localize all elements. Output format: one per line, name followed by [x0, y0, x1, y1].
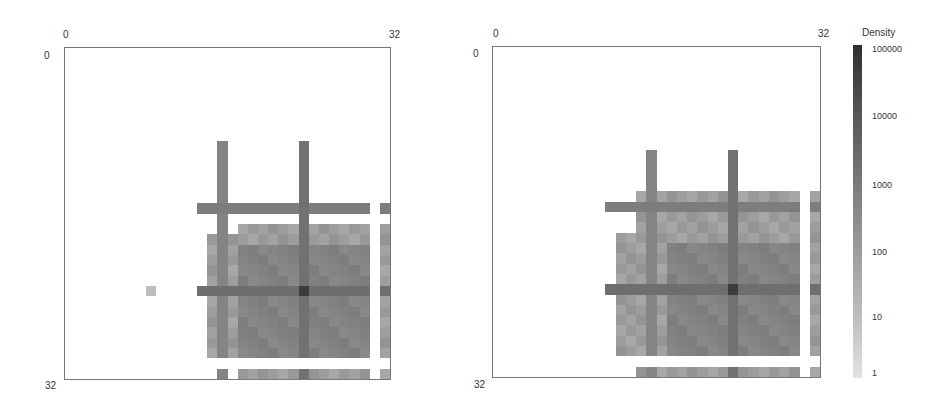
heatmap-cell	[544, 346, 554, 356]
heatmap-cell	[177, 69, 187, 79]
right-x-tick-start: 0	[493, 29, 499, 39]
heatmap-cell	[779, 150, 789, 160]
heatmap-cell	[708, 88, 718, 98]
heatmap-cell	[779, 119, 789, 129]
heatmap-cell	[187, 162, 197, 172]
heatmap-cell	[167, 245, 177, 255]
heatmap-cell	[380, 110, 390, 120]
heatmap-cell	[360, 265, 370, 275]
heatmap-cell	[177, 307, 187, 317]
heatmap-cell	[565, 356, 575, 366]
heatmap-cell	[65, 172, 75, 182]
heatmap-cell	[544, 109, 554, 119]
heatmap-cell	[380, 255, 390, 265]
heatmap-cell	[319, 286, 329, 296]
heatmap-cell	[728, 233, 738, 243]
heatmap-cell	[810, 295, 820, 305]
heatmap-cell	[575, 212, 585, 222]
heatmap-cell	[636, 356, 646, 366]
heatmap-cell	[288, 317, 298, 327]
heatmap-cell	[534, 202, 544, 212]
heatmap-cell	[339, 100, 349, 110]
heatmap-cell	[380, 182, 390, 192]
heatmap-cell	[85, 307, 95, 317]
heatmap-cell	[595, 356, 605, 366]
heatmap-cell	[636, 68, 646, 78]
heatmap-cell	[197, 131, 207, 141]
heatmap-cell	[534, 68, 544, 78]
heatmap-cell	[370, 234, 380, 244]
heatmap-cell	[657, 325, 667, 335]
heatmap-cell	[748, 336, 758, 346]
heatmap-cell	[136, 358, 146, 368]
heatmap-cell	[524, 88, 534, 98]
heatmap-cell	[126, 317, 136, 327]
heatmap-cell	[575, 284, 585, 294]
heatmap-cell	[565, 336, 575, 346]
heatmap-cell	[810, 57, 820, 67]
heatmap-cell	[626, 88, 636, 98]
heatmap-cell	[789, 264, 799, 274]
heatmap-cell	[299, 79, 309, 89]
heatmap-cell	[309, 141, 319, 151]
heatmap-cell	[116, 110, 126, 120]
heatmap-cell	[646, 171, 656, 181]
heatmap-cell	[789, 346, 799, 356]
heatmap-cell	[146, 162, 156, 172]
heatmap-cell	[248, 255, 258, 265]
heatmap-cell	[360, 224, 370, 234]
heatmap-cell	[349, 172, 359, 182]
heatmap-cell	[534, 160, 544, 170]
heatmap-cell	[748, 295, 758, 305]
heatmap-cell	[657, 88, 667, 98]
heatmap-cell	[534, 181, 544, 191]
heatmap-cell	[167, 338, 177, 348]
heatmap-cell	[810, 78, 820, 88]
heatmap-cell	[288, 276, 298, 286]
heatmap-cell	[616, 191, 626, 201]
heatmap-cell	[595, 336, 605, 346]
heatmap-cell	[116, 317, 126, 327]
heatmap-cell	[360, 182, 370, 192]
heatmap-cell	[810, 160, 820, 170]
heatmap-cell	[75, 224, 85, 234]
heatmap-cell	[238, 69, 248, 79]
heatmap-cell	[748, 253, 758, 263]
heatmap-cell	[616, 68, 626, 78]
heatmap-cell	[339, 338, 349, 348]
heatmap-cell	[288, 338, 298, 348]
heatmap-cell	[248, 58, 258, 68]
heatmap-cell	[75, 48, 85, 58]
heatmap-cell	[524, 367, 534, 377]
heatmap-cell	[657, 233, 667, 243]
heatmap-cell	[575, 57, 585, 67]
heatmap-cell	[85, 110, 95, 120]
heatmap-cell	[126, 224, 136, 234]
heatmap-cell	[197, 172, 207, 182]
heatmap-cell	[360, 317, 370, 327]
heatmap-cell	[146, 79, 156, 89]
heatmap-cell	[207, 234, 217, 244]
heatmap-cell	[258, 151, 268, 161]
heatmap-cell	[197, 48, 207, 58]
heatmap-cell	[319, 89, 329, 99]
heatmap-cell	[339, 296, 349, 306]
heatmap-cell	[657, 367, 667, 377]
heatmap-cell	[187, 58, 197, 68]
heatmap-cell	[65, 58, 75, 68]
heatmap-cell	[349, 182, 359, 192]
heatmap-cell	[278, 193, 288, 203]
heatmap-cell	[687, 68, 697, 78]
heatmap-cell	[207, 100, 217, 110]
heatmap-cell	[85, 141, 95, 151]
heatmap-cell	[779, 109, 789, 119]
heatmap-cell	[329, 79, 339, 89]
heatmap-cell	[268, 120, 278, 130]
heatmap-cell	[167, 141, 177, 151]
heatmap-cell	[238, 131, 248, 141]
heatmap-cell	[616, 295, 626, 305]
heatmap-cell	[657, 150, 667, 160]
heatmap-cell	[748, 47, 758, 57]
heatmap-cell	[329, 131, 339, 141]
heatmap-cell	[616, 57, 626, 67]
